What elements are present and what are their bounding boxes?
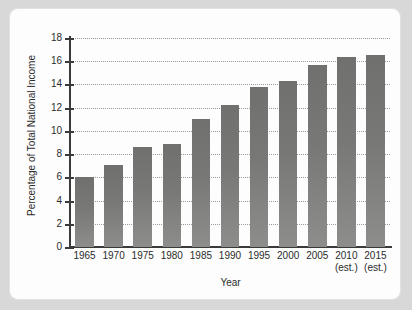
x-axis-tick-label: 1990 — [215, 250, 244, 262]
y-axis-tick — [65, 61, 74, 63]
y-axis-tick — [65, 224, 74, 226]
bar-slot — [221, 38, 240, 247]
bar-slot — [104, 38, 123, 247]
x-axis-tick-note: (est.) — [361, 262, 390, 274]
bar-slot — [163, 38, 182, 247]
plot-area — [70, 38, 390, 247]
x-axis-tick-year: 2010 — [332, 250, 361, 262]
bar[interactable] — [75, 177, 94, 247]
bar[interactable] — [250, 87, 269, 247]
bar-slot — [133, 38, 152, 247]
y-axis-tick — [65, 201, 74, 203]
x-axis-tick-label: 2015(est.) — [361, 250, 390, 274]
x-axis-tick-year: 1995 — [245, 250, 274, 262]
y-axis-tick — [65, 154, 74, 156]
bar-slot — [366, 38, 385, 247]
x-axis-tick-year: 1980 — [157, 250, 186, 262]
y-axis-tick-label: 14 — [40, 79, 62, 89]
x-axis-tick-label: 1970 — [99, 250, 128, 262]
y-axis-tick — [65, 177, 74, 179]
x-axis-tick-label: 1965 — [70, 250, 99, 262]
bar-slot — [75, 38, 94, 247]
x-axis-tick-label: 1975 — [128, 250, 157, 262]
bar[interactable] — [337, 57, 356, 247]
y-axis-tick-label: 6 — [40, 172, 62, 182]
bar[interactable] — [279, 81, 298, 247]
bar[interactable] — [192, 119, 211, 247]
y-axis-tick-label: 2 — [40, 219, 62, 229]
y-axis-tick — [65, 247, 74, 249]
x-axis-tick-labels: 1965197019751980198519901995200020052010… — [70, 250, 390, 280]
x-axis-tick-year: 1985 — [186, 250, 215, 262]
y-axis-tick — [65, 108, 74, 110]
x-axis-tick-label: 1980 — [157, 250, 186, 262]
x-axis-tick-note: (est.) — [332, 262, 361, 274]
y-axis-tick-label: 10 — [40, 126, 62, 136]
bar-slot — [192, 38, 211, 247]
bar[interactable] — [308, 65, 327, 247]
x-axis-tick-label: 2005 — [303, 250, 332, 262]
x-axis-tick-year: 1965 — [70, 250, 99, 262]
x-axis-tick-label: 2000 — [274, 250, 303, 262]
x-axis-tick-year: 1975 — [128, 250, 157, 262]
y-axis-title: Percentage of Total National Income — [26, 53, 37, 219]
bar[interactable] — [163, 144, 182, 247]
bar[interactable] — [366, 55, 385, 247]
x-axis-tick-year: 1970 — [99, 250, 128, 262]
bar-slot — [279, 38, 298, 247]
y-axis-tick — [65, 131, 74, 133]
x-axis-tick-label: 1995 — [245, 250, 274, 262]
y-axis-tick-label: 18 — [40, 33, 62, 43]
y-axis-tick-label: 0 — [40, 242, 62, 252]
chart-panel: 024681012141618 196519701975198019851990… — [9, 8, 401, 300]
bar-slot — [308, 38, 327, 247]
y-axis-tick-label: 12 — [40, 103, 62, 113]
y-axis-tick-labels: 024681012141618 — [36, 9, 62, 301]
y-axis-tick-label: 16 — [40, 56, 62, 66]
y-axis-tick-label: 8 — [40, 149, 62, 159]
y-axis-tick — [65, 84, 74, 86]
bar[interactable] — [133, 147, 152, 247]
x-axis-tick-label: 1985 — [186, 250, 215, 262]
bar[interactable] — [104, 165, 123, 247]
x-axis-title: Year — [69, 277, 392, 288]
x-axis-tick-label: 2010(est.) — [332, 250, 361, 274]
x-axis-tick-year: 2000 — [274, 250, 303, 262]
x-axis-tick-year: 2015 — [361, 250, 390, 262]
y-axis-tick-label: 4 — [40, 196, 62, 206]
bar-slot — [250, 38, 269, 247]
x-axis-tick-year: 2005 — [303, 250, 332, 262]
x-axis-tick-year: 1990 — [215, 250, 244, 262]
bar-slot — [337, 38, 356, 247]
bar[interactable] — [221, 105, 240, 247]
y-axis-tick — [65, 38, 74, 40]
